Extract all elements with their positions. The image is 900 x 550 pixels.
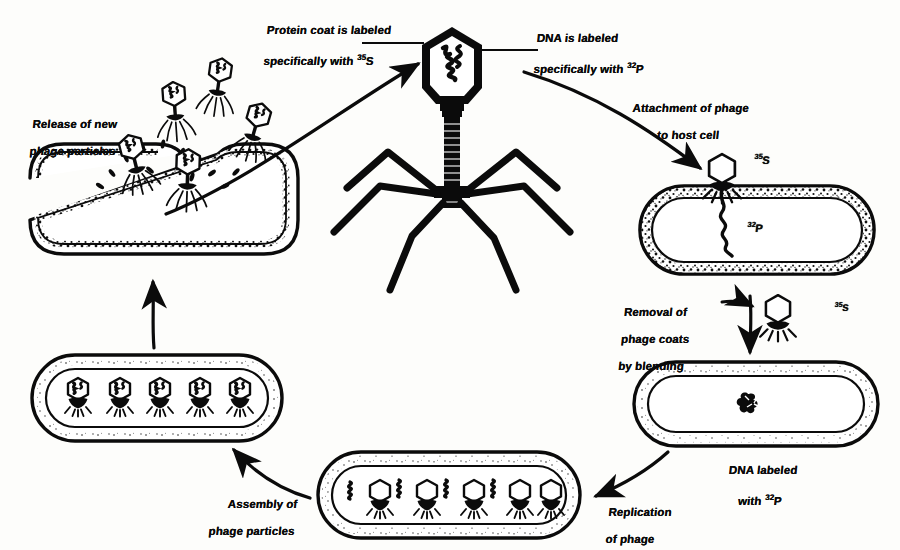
isotope-label-s35-ghost: 35S — [822, 290, 850, 324]
replication-cell-illustration — [318, 452, 580, 538]
label-dna-labeled-with-32p: DNA labeled with 32P — [686, 450, 823, 521]
released-phage — [195, 56, 240, 119]
arrow-to-phage-ghost — [722, 301, 752, 306]
label-attachment: Attachment of phage to host cell — [604, 88, 761, 156]
label-protein-coat: Protein coat is labeled specifically wit… — [248, 10, 367, 81]
label-assembly: Assembly of phage particles — [164, 484, 299, 550]
diagram-canvas: Protein coat is labeled specifically wit… — [0, 0, 900, 550]
phage-ghost-illustration — [760, 295, 796, 341]
arrow-blended-to-replication — [596, 452, 668, 496]
label-replication: Replication of phage — [590, 492, 707, 550]
arrow-assembly-to-lysis — [153, 282, 154, 348]
assembly-cell-illustration — [32, 355, 282, 441]
isotope-label-s35-attached: 35S — [740, 140, 772, 178]
label-release: Release of new phage particles — [14, 104, 161, 172]
label-removal-by-blending: Removal of phage coats by blending — [603, 292, 713, 387]
label-dna-labeled: DNA is labeled specifically with 32P — [518, 18, 675, 89]
isotope-label-p32-injected: 32P — [733, 208, 765, 246]
